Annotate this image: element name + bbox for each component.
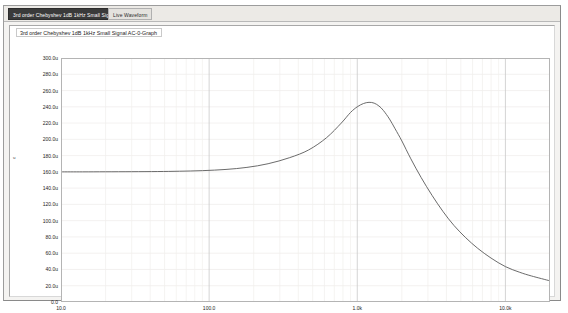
y-axis-labels: 300.0u280.0u260.0u240.0u220.0u200.0u180.… [10,26,58,296]
grid-major-lines [61,58,505,302]
y-axis-tick-label: 200.0u [14,136,58,142]
tab-strip: 3rd order Chebyshev 1dB 1kHz Small Signa… [4,6,560,22]
y-axis-tick-label: 20.0u [14,283,58,289]
y-axis-tick-label: 80.0u [14,234,58,240]
response-curve-chart [61,58,550,302]
y-axis-tick-label: 60.0u [14,250,58,256]
y-axis-tick-label: 100.0u [14,218,58,224]
y-axis-tick-label: 300.0u [14,55,58,61]
y-axis-tick-label: 120.0u [14,201,58,207]
x-axis-tick-label: 100.0 [184,305,234,311]
y-axis-tick-label: 280.0u [14,71,58,77]
x-axis-tick-label: 10.0 [36,305,86,311]
y-axis-unit-label: u [13,155,15,160]
x-axis-tick-label: 10.0k [480,305,530,311]
y-axis-tick-label: 160.0u [14,169,58,175]
y-axis-tick-label: 220.0u [14,120,58,126]
graph-panel: 3rd order Chebyshev 1dB 1kHz Small Signa… [9,25,555,297]
graph-window: 3rd order Chebyshev 1dB 1kHz Small Signa… [3,5,561,301]
y-axis-tick-label: 240.0u [14,104,58,110]
x-axis-tick-label: 1.0k [332,305,382,311]
grid-minor-lines [61,58,550,302]
x-axis-labels: 10.0100.01.0k10.0k [61,305,550,313]
plot-area[interactable] [61,58,550,302]
y-axis-tick-label: 180.0u [14,153,58,159]
y-axis-tick-label: 140.0u [14,185,58,191]
series-line-v-out [61,102,550,281]
y-axis-tick-label: 40.0u [14,266,58,272]
tab-live-waveform[interactable]: Live Waveform [108,8,152,20]
y-axis-tick-label: 260.0u [14,88,58,94]
